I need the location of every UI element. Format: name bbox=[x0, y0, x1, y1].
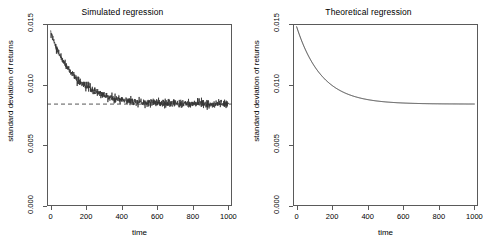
x-axis-tick-label: 600 bbox=[151, 212, 164, 221]
x-axis-tick-label: 1000 bbox=[220, 212, 237, 221]
y-axis-tick-label: 0.010 bbox=[26, 71, 35, 95]
y-axis-title-left: standard deviation of returns bbox=[6, 0, 20, 182]
y-axis-tick-mark bbox=[289, 206, 293, 207]
y-axis-tick-label: 0.005 bbox=[26, 132, 35, 156]
y-axis-tick-label: 0.015 bbox=[26, 11, 35, 35]
x-axis-tick-label: 400 bbox=[115, 212, 128, 221]
x-axis-tick-mark bbox=[86, 206, 87, 210]
plot-area-right bbox=[293, 24, 478, 206]
panel-theoretical-regression: Theoretical regression standard deviatio… bbox=[246, 0, 491, 252]
plot-area-left bbox=[47, 24, 232, 206]
y-axis-tick-label: 0.010 bbox=[272, 71, 281, 95]
x-axis-title-left: time bbox=[47, 228, 232, 237]
figure-canvas: Simulated regression standard deviation … bbox=[0, 0, 491, 252]
y-axis-tick-mark bbox=[43, 24, 47, 25]
plot-svg-right bbox=[293, 24, 478, 206]
y-axis-tick-label: 0.000 bbox=[26, 193, 35, 217]
x-axis-tick-mark bbox=[403, 206, 404, 210]
x-axis-title-right: time bbox=[293, 228, 478, 237]
x-axis-tick-mark bbox=[193, 206, 194, 210]
x-axis-tick-label: 600 bbox=[397, 212, 410, 221]
panel-title-right: Theoretical regression bbox=[246, 7, 491, 17]
x-axis-tick-label: 400 bbox=[361, 212, 374, 221]
x-axis-tick-label: 1000 bbox=[466, 212, 483, 221]
y-axis-tick-mark bbox=[43, 145, 47, 146]
x-axis-tick-mark bbox=[332, 206, 333, 210]
x-axis-tick-mark bbox=[122, 206, 123, 210]
y-axis-tick-mark bbox=[43, 206, 47, 207]
x-axis-tick-mark bbox=[228, 206, 229, 210]
x-axis-tick-mark bbox=[297, 206, 298, 210]
panel-simulated-regression: Simulated regression standard deviation … bbox=[0, 0, 245, 252]
x-axis-tick-label: 200 bbox=[326, 212, 339, 221]
x-axis-tick-mark bbox=[368, 206, 369, 210]
y-axis-title-right: standard deviation of returns bbox=[252, 0, 266, 182]
x-axis-tick-label: 800 bbox=[187, 212, 200, 221]
panel-title-left: Simulated regression bbox=[0, 7, 245, 17]
y-axis-tick-mark bbox=[43, 85, 47, 86]
x-axis-tick-mark bbox=[474, 206, 475, 210]
plot-svg-left bbox=[47, 24, 232, 206]
x-axis-tick-label: 200 bbox=[80, 212, 93, 221]
x-axis-tick-label: 800 bbox=[433, 212, 446, 221]
y-axis-tick-mark bbox=[289, 145, 293, 146]
y-axis-tick-label: 0.005 bbox=[272, 132, 281, 156]
y-axis-tick-label: 0.000 bbox=[272, 193, 281, 217]
y-axis-tick-mark bbox=[289, 24, 293, 25]
x-axis-tick-label: 0 bbox=[294, 212, 298, 221]
y-axis-tick-mark bbox=[289, 85, 293, 86]
x-axis-tick-label: 0 bbox=[48, 212, 52, 221]
simulated-series-path bbox=[51, 31, 229, 110]
theoretical-series-path bbox=[297, 27, 475, 104]
y-axis-tick-label: 0.015 bbox=[272, 11, 281, 35]
x-axis-tick-mark bbox=[439, 206, 440, 210]
x-axis-tick-mark bbox=[51, 206, 52, 210]
x-axis-tick-mark bbox=[157, 206, 158, 210]
